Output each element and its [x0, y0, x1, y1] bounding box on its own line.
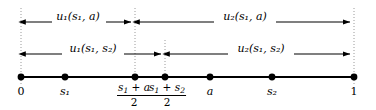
fraction-numerator-mid-s1-s2: s1 + s2 — [148, 82, 186, 96]
segment-label-u2-s1-a: u₂(s₁, a) — [223, 11, 267, 22]
fraction-denominator-mid-s1-s2: 2 — [148, 96, 186, 108]
tick-label-s1: s₁ — [60, 86, 70, 97]
number-line-axis — [18, 74, 358, 81]
tick-label-a: a — [207, 86, 214, 97]
axis-point-a — [207, 74, 214, 81]
fraction-denominator-mid-s1-a: 2 — [117, 96, 151, 108]
segment-label-u1-s1-a: u₁(s₁, a) — [56, 11, 100, 22]
number-line-figure: u₁(s₁, a) u₂(s₁, a) u₁(s₁, s₂) u₂(s₁, s₂… — [0, 0, 376, 110]
segment-label-u2-s1-s2: u₂(s₁, s₂) — [237, 43, 284, 54]
fraction-numerator-mid-s1-a: s1 + a — [117, 82, 151, 96]
tick-label-s2: s₂ — [267, 86, 277, 97]
tick-label-one: 1 — [351, 86, 358, 97]
tick-label-mid-s1-s2: s1 + s2 2 — [148, 82, 186, 108]
fraction-num-right-sub-mid-s1-s2: 2 — [180, 86, 185, 95]
fraction-operator-mid-s1-a: + — [128, 81, 143, 93]
tick-label-zero: 0 — [18, 86, 25, 97]
axis-point-s1 — [62, 74, 69, 81]
fraction-operator-mid-s1-s2: + — [159, 81, 174, 93]
axis-point-mid-s1-s2 — [162, 74, 169, 81]
axis-point-mid-s1-a — [132, 74, 139, 81]
segment-label-u1-s1-s2: u₁(s₁, s₂) — [69, 43, 116, 54]
axis-point-s2 — [269, 74, 276, 81]
axis-point-zero — [18, 74, 25, 81]
axis-point-one — [351, 74, 358, 81]
tick-label-mid-s1-a: s1 + a 2 — [117, 82, 151, 108]
